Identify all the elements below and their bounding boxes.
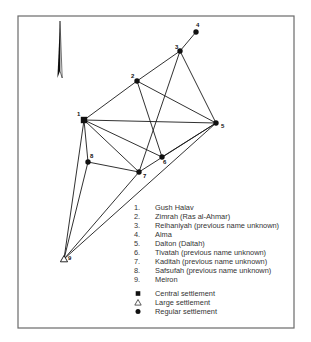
legend-settlement-item: 5.Dalton (Daltah) xyxy=(134,239,205,248)
legend-name: Tivatah (previous name unknown) xyxy=(155,248,266,257)
node-number-label: 7 xyxy=(143,173,147,179)
node-number-label: 1 xyxy=(77,111,81,117)
filled-square-icon xyxy=(81,117,87,123)
filled-circle-icon xyxy=(85,159,90,164)
legend-number: 5. xyxy=(134,239,140,248)
legend-settlement-item: 8.Safsufah (previous name unknown) xyxy=(134,266,271,275)
settlement-network-map: 123456789 1.Gush Halav2.Zimrah (Ras al-A… xyxy=(0,0,311,342)
legend-number: 6. xyxy=(134,248,140,257)
edge-1-7 xyxy=(84,120,139,172)
settlement-node-5: 5 xyxy=(213,120,225,129)
node-number-label: 8 xyxy=(90,153,94,159)
node-number-label: 6 xyxy=(163,159,167,165)
legend-name: Dalton (Daltah) xyxy=(155,239,205,248)
legend-settlement-item: 6.Tivatah (previous name unknown) xyxy=(134,248,266,257)
edge-1-2 xyxy=(84,81,137,120)
filled-circle-icon xyxy=(213,120,218,125)
edge-8-7 xyxy=(88,162,139,172)
node-number-label: 2 xyxy=(131,73,135,79)
edge-3-4 xyxy=(180,32,196,51)
node-number-label: 5 xyxy=(221,123,225,129)
legend-settlement-item: 7.Kaditah (previous name unknown) xyxy=(134,257,267,266)
legend-settlement-item: 9.Meiron xyxy=(134,275,178,284)
legend-symbol-label: Central settlement xyxy=(155,289,215,298)
node-number-label: 4 xyxy=(196,22,200,28)
filled-circle-icon xyxy=(134,78,139,83)
legend-symbol-label: Large settlement xyxy=(155,298,210,307)
filled-circle-icon xyxy=(136,309,141,314)
legend-number: 7. xyxy=(134,257,140,266)
legend-number: 4. xyxy=(134,230,140,239)
filled-square-icon xyxy=(136,291,141,296)
settlement-node-3: 3 xyxy=(175,44,183,54)
legend-name: Gush Halav xyxy=(155,203,194,212)
legend-number: 9. xyxy=(134,275,140,284)
legend-number: 1. xyxy=(134,203,140,212)
settlement-legend: 1.Gush Halav2.Zimrah (Ras al-Ahmar)3.Rei… xyxy=(134,203,279,284)
open-triangle-icon xyxy=(135,300,141,306)
legend-name: Reihaniyah (previous name unknown) xyxy=(155,221,279,230)
legend-number: 8. xyxy=(134,266,140,275)
north-arrow-icon xyxy=(57,21,62,78)
filled-circle-icon xyxy=(193,29,198,34)
legend-name: Safsufah (previous name unknown) xyxy=(155,266,271,275)
legend-settlement-item: 2.Zimrah (Ras al-Ahmar) xyxy=(134,212,230,221)
legend-symbol-square: Central settlement xyxy=(136,289,215,298)
legend-name: Alma xyxy=(155,230,173,239)
legend-name: Zimrah (Ras al-Ahmar) xyxy=(155,212,230,221)
filled-circle-icon xyxy=(136,169,141,174)
symbol-legend: Central settlementLarge settlementRegula… xyxy=(135,289,217,316)
legend-settlement-item: 1.Gush Halav xyxy=(134,203,194,212)
legend-name: Meiron xyxy=(155,275,178,284)
legend-symbol-circle: Regular settlement xyxy=(136,307,218,316)
legend-number: 3. xyxy=(134,221,140,230)
legend-settlement-item: 3.Reihaniyah (previous name unknown) xyxy=(134,221,279,230)
legend-number: 2. xyxy=(134,212,140,221)
node-number-label: 9 xyxy=(68,255,72,261)
settlement-node-4: 4 xyxy=(193,22,200,35)
edge-2-3 xyxy=(137,51,180,81)
settlement-node-1: 1 xyxy=(77,111,87,123)
edge-1-8 xyxy=(84,120,88,162)
edge-3-5 xyxy=(180,51,216,123)
edge-7-9 xyxy=(64,172,139,259)
settlement-node-6: 6 xyxy=(159,154,167,165)
settlement-node-2: 2 xyxy=(131,73,140,84)
legend-symbol-label: Regular settlement xyxy=(155,307,217,316)
edge-6-5 xyxy=(162,123,216,157)
edge-3-7 xyxy=(139,51,180,172)
legend-name: Kaditah (previous name unknown) xyxy=(155,257,267,266)
legend-settlement-item: 4.Alma xyxy=(134,230,173,239)
legend-symbol-triangle: Large settlement xyxy=(135,298,210,307)
